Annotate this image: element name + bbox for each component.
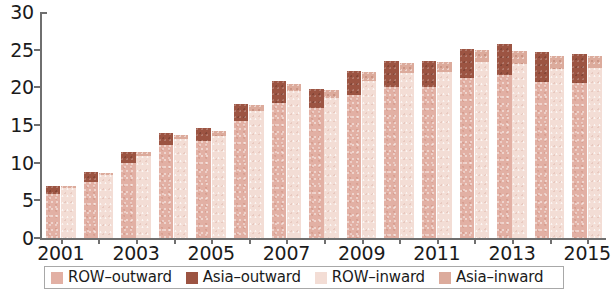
- bar-segment-asia-outward: [422, 61, 437, 87]
- bar-segment-asia-inward: [437, 62, 452, 73]
- bar-segment-row-outward: [272, 103, 287, 238]
- bar-segment-row-inward: [212, 136, 227, 238]
- bar-inward[interactable]: [99, 173, 114, 238]
- bar-outward[interactable]: [535, 52, 550, 238]
- bar-outward[interactable]: [460, 49, 475, 238]
- bar-outward[interactable]: [422, 61, 437, 238]
- bar-outward[interactable]: [272, 81, 287, 238]
- bar-inward[interactable]: [136, 152, 151, 238]
- bar-group[interactable]: [347, 12, 377, 238]
- bar-group[interactable]: [46, 12, 76, 238]
- y-axis-tick-mark: [34, 124, 41, 126]
- bar-segment-row-outward: [535, 82, 550, 238]
- bar-inward[interactable]: [174, 135, 189, 238]
- bar-segment-row-inward: [437, 72, 452, 238]
- bar-segment-asia-inward: [400, 63, 415, 73]
- bar-segment-row-inward: [400, 73, 415, 238]
- bar-segment-row-inward: [61, 188, 76, 238]
- legend-item[interactable]: Asia–outward: [186, 270, 301, 285]
- bar-inward[interactable]: [61, 186, 76, 238]
- bar-segment-asia-outward: [121, 152, 136, 163]
- bar-segment-row-inward: [550, 69, 565, 239]
- x-axis-tick-label: 2013: [488, 242, 535, 264]
- bar-outward[interactable]: [572, 54, 587, 238]
- legend-swatch-asia-outward: [186, 272, 198, 284]
- bar-group[interactable]: [272, 12, 302, 238]
- x-axis-tick-label: 2003: [112, 242, 159, 264]
- bar-segment-asia-inward: [550, 56, 565, 69]
- bar-group[interactable]: [84, 12, 114, 238]
- bar-segment-row-outward: [46, 194, 61, 238]
- y-axis-tick-mark: [34, 199, 41, 201]
- bar-outward[interactable]: [234, 104, 249, 238]
- bar-group[interactable]: [497, 12, 527, 238]
- bar-segment-row-outward: [196, 141, 211, 238]
- plot-area: [42, 12, 606, 238]
- bar-inward[interactable]: [475, 50, 490, 238]
- plot-wrapper: 051015202530: [0, 0, 611, 250]
- legend-item-label: Asia–inward: [456, 270, 543, 285]
- bar-inward[interactable]: [212, 131, 227, 238]
- bar-group[interactable]: [422, 12, 452, 238]
- bar-segment-asia-inward: [588, 56, 603, 68]
- bar-outward[interactable]: [121, 152, 136, 238]
- bar-segment-asia-outward: [347, 71, 362, 95]
- bar-outward[interactable]: [84, 172, 99, 238]
- bar-inward[interactable]: [400, 63, 415, 238]
- bar-inward[interactable]: [287, 84, 302, 238]
- bar-segment-asia-inward: [512, 51, 527, 64]
- y-axis-tick-mark: [34, 49, 41, 51]
- bar-segment-row-outward: [309, 108, 324, 238]
- bar-segment-asia-inward: [475, 50, 490, 62]
- y-axis-tick-label: 25: [0, 40, 34, 59]
- bar-segment-asia-outward: [309, 89, 324, 108]
- x-axis-tick-label: 2001: [37, 242, 84, 264]
- bar-group[interactable]: [196, 12, 226, 238]
- chart-legend: ROW–outwardAsia–outwardROW–inwardAsia–in…: [44, 266, 564, 289]
- bar-segment-asia-outward: [572, 54, 587, 83]
- bar-group[interactable]: [159, 12, 189, 238]
- bar-group[interactable]: [535, 12, 565, 238]
- bar-inward[interactable]: [249, 105, 264, 238]
- y-axis-tick-label: 5: [0, 191, 34, 210]
- bar-inward[interactable]: [512, 51, 527, 238]
- bar-segment-asia-outward: [535, 52, 550, 82]
- legend-item[interactable]: ROW–outward: [51, 270, 172, 285]
- y-axis-tick-mark: [34, 86, 41, 88]
- bar-outward[interactable]: [196, 128, 211, 238]
- y-axis-tick-mark: [34, 162, 41, 164]
- bar-segment-row-inward: [588, 68, 603, 238]
- bar-segment-row-outward: [572, 83, 587, 238]
- bar-segment-asia-inward: [287, 84, 302, 92]
- bar-inward[interactable]: [362, 72, 377, 238]
- legend-item[interactable]: Asia–inward: [439, 270, 543, 285]
- bar-segment-row-outward: [384, 87, 399, 238]
- bar-group[interactable]: [384, 12, 414, 238]
- bar-outward[interactable]: [384, 61, 399, 238]
- bar-inward[interactable]: [437, 62, 452, 238]
- y-axis-tick-label: 10: [0, 153, 34, 172]
- bar-segment-asia-outward: [234, 104, 249, 121]
- bar-inward[interactable]: [324, 90, 339, 238]
- bar-group[interactable]: [121, 12, 151, 238]
- bar-group[interactable]: [234, 12, 264, 238]
- x-axis-tick-label: 2005: [188, 242, 235, 264]
- bar-outward[interactable]: [347, 71, 362, 238]
- bar-segment-asia-outward: [497, 44, 512, 75]
- bar-segment-row-inward: [174, 139, 189, 238]
- legend-item[interactable]: ROW–inward: [315, 270, 425, 285]
- bar-inward[interactable]: [588, 56, 603, 238]
- bar-inward[interactable]: [550, 56, 565, 238]
- bar-group[interactable]: [309, 12, 339, 238]
- bar-outward[interactable]: [309, 89, 324, 238]
- bar-outward[interactable]: [159, 133, 174, 238]
- bar-outward[interactable]: [497, 44, 512, 238]
- legend-item-label: ROW–inward: [332, 270, 425, 285]
- legend-swatch-row-inward: [315, 272, 327, 284]
- x-axis-tick-labels: 20012003200520072009201120132015: [0, 242, 611, 268]
- bar-outward[interactable]: [46, 186, 61, 238]
- bar-group[interactable]: [460, 12, 490, 238]
- bar-segment-row-inward: [512, 64, 527, 238]
- legend-item-label: ROW–outward: [68, 270, 172, 285]
- bar-group[interactable]: [572, 12, 602, 238]
